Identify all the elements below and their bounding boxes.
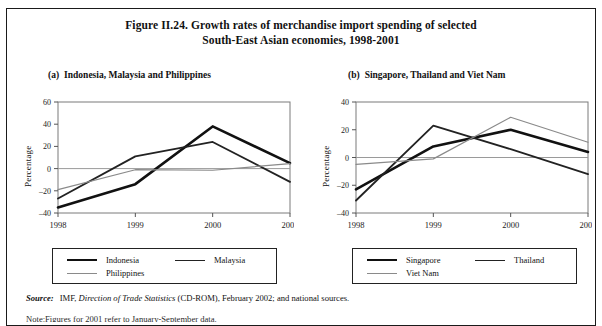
legend-label: Thailand	[514, 255, 544, 265]
source-text-after: (CD-ROM), February 2002; and national so…	[178, 293, 350, 303]
svg-text:2001: 2001	[282, 220, 295, 230]
svg-text:60: 60	[43, 98, 51, 107]
source-text-before: IMF,	[60, 293, 77, 303]
figure-title-line2: South-East Asian economies, 1998-2001	[0, 33, 602, 48]
svg-text:–40: –40	[38, 209, 51, 218]
panel-b-tag: (b)	[348, 70, 360, 80]
legend-swatch-icon	[67, 259, 97, 261]
svg-text:1999: 1999	[425, 220, 442, 230]
svg-text:1998: 1998	[348, 220, 365, 230]
svg-text:–20: –20	[38, 187, 51, 196]
panel-b-subtitle-text: Singapore, Thailand and Viet Nam	[365, 70, 506, 80]
panel-b-legend-item: Singapore	[367, 255, 440, 265]
svg-text:0: 0	[345, 154, 349, 163]
svg-text:2000: 2000	[502, 220, 519, 230]
panel-b-legend-item: Viet Nam	[367, 268, 439, 278]
note-label: Note:	[26, 314, 45, 322]
svg-text:0: 0	[47, 165, 51, 174]
svg-text:–40: –40	[336, 209, 349, 218]
figure-title-line1: Figure II.24. Growth rates of merchandis…	[0, 18, 602, 33]
legend-swatch-icon	[475, 260, 505, 261]
svg-text:40: 40	[341, 98, 349, 107]
source-note: Source:IMF, Direction of Trade Statistic…	[26, 292, 586, 305]
legend-label: Philippines	[106, 268, 144, 278]
legend-swatch-icon	[67, 273, 97, 274]
panel-b-subtitle: (b)Singapore, Thailand and Viet Nam	[348, 70, 506, 80]
legend-swatch-icon	[367, 259, 397, 261]
svg-text:1998: 1998	[50, 220, 67, 230]
panel-a-legend-item: Indonesia	[67, 255, 139, 265]
panel-b-legend: SingaporeThailandViet Nam	[352, 248, 577, 284]
panel-a-legend-item: Malaysia	[175, 255, 245, 265]
svg-text:2001: 2001	[580, 220, 593, 230]
legend-label: Viet Nam	[406, 268, 439, 278]
panel-a-legend-item: Philippines	[67, 268, 144, 278]
legend-label: Singapore	[406, 255, 440, 265]
legend-swatch-icon	[175, 260, 205, 261]
legend-label: Indonesia	[106, 255, 139, 265]
note-text: Figures for 2001 refer to January-Septem…	[45, 314, 217, 322]
panel-b-legend-item: Thailand	[475, 255, 544, 265]
svg-text:1999: 1999	[127, 220, 144, 230]
source-italic-title: Direction of Trade Statistics	[79, 293, 176, 303]
legend-swatch-icon	[367, 273, 397, 274]
panel-a-subtitle-text: Indonesia, Malaysia and Philippines	[64, 70, 211, 80]
svg-text:2000: 2000	[204, 220, 221, 230]
figure-title: Figure II.24. Growth rates of merchandis…	[0, 18, 602, 48]
svg-text:40: 40	[43, 120, 51, 129]
svg-text:–20: –20	[336, 181, 349, 190]
panel-a-plot: –40–2002040601998199920002001	[24, 92, 294, 237]
panel-a-tag: (a)	[48, 70, 59, 80]
note-row: Note:Figures for 2001 refer to January-S…	[26, 313, 217, 322]
svg-text:20: 20	[43, 142, 51, 151]
panel-a-subtitle: (a)Indonesia, Malaysia and Philippines	[48, 70, 211, 80]
legend-label: Malaysia	[214, 255, 245, 265]
panel-subtitles: (a)Indonesia, Malaysia and Philippines (…	[0, 70, 602, 86]
source-label: Source:	[26, 293, 54, 303]
panel-b-plot: –40–20020401998199920002001	[322, 92, 592, 237]
svg-text:20: 20	[341, 126, 349, 135]
panel-a-legend: IndonesiaMalaysiaPhilippines	[52, 248, 277, 284]
chart-panel-b: Percentage –40–20020401998199920002001	[322, 92, 592, 224]
chart-panel-a: Percentage –40–2002040601998199920002001	[24, 92, 294, 224]
